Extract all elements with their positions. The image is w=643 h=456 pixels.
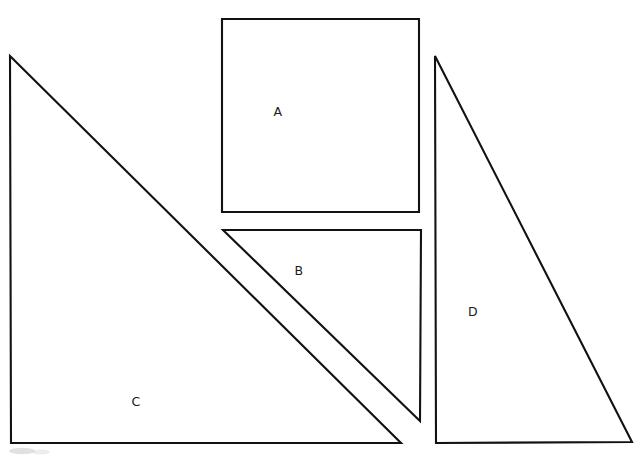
- shapes-diagram: A B C D: [0, 0, 643, 456]
- figure-canvas: A B C D: [0, 0, 643, 456]
- scan-artifact-smudge: [9, 448, 35, 454]
- shape-label-c: C: [132, 394, 141, 409]
- shape-label-a: A: [274, 104, 283, 119]
- shape-triangle-d: [435, 56, 632, 443]
- shape-label-b: B: [295, 263, 304, 278]
- shape-square-a: [222, 19, 419, 212]
- shape-label-d: D: [468, 304, 478, 319]
- scan-artifact-smudge-secondary: [32, 450, 50, 455]
